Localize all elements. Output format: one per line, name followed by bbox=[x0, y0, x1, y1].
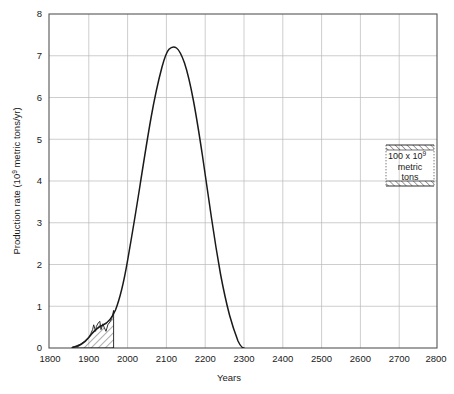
legend-value-prefix: 100 x 10 bbox=[388, 151, 423, 161]
y-tick-label-5: 5 bbox=[37, 134, 42, 145]
x-tick-label-2800: 2800 bbox=[425, 353, 446, 364]
x-tick-label-2400: 2400 bbox=[272, 353, 293, 364]
y-tick-label-8: 8 bbox=[37, 8, 42, 19]
production-rate-chart: 100 x 109 metric tons 0 1 2 3 4 5 6 7 8 … bbox=[0, 0, 454, 394]
x-tick-label-1900: 1900 bbox=[78, 353, 99, 364]
y-tick-label-4: 4 bbox=[37, 175, 42, 186]
chart-background bbox=[0, 0, 454, 394]
x-tick-label-2700: 2700 bbox=[389, 353, 410, 364]
y-tick-label-6: 6 bbox=[37, 92, 42, 103]
x-tick-label-1800: 1800 bbox=[39, 353, 60, 364]
x-tick-label-2300: 2300 bbox=[233, 353, 254, 364]
x-tick-label-2100: 2100 bbox=[156, 353, 177, 364]
y-axis-title: Production rate (109 metric tons/yr) bbox=[11, 107, 23, 254]
y-tick-label-2: 2 bbox=[37, 259, 42, 270]
x-tick-label-2500: 2500 bbox=[311, 353, 332, 364]
x-axis-title: Years bbox=[217, 372, 241, 383]
y-axis-title-tail: metric tons/yr) bbox=[11, 107, 22, 170]
legend-unit-line-2: tons bbox=[401, 172, 419, 182]
x-tick-label-2000: 2000 bbox=[117, 353, 138, 364]
y-tick-label-7: 7 bbox=[37, 50, 42, 61]
legend-value-exponent: 9 bbox=[423, 150, 427, 157]
y-axis-tick-labels: 0 1 2 3 4 5 6 7 8 bbox=[37, 8, 42, 353]
x-tick-label-2600: 2600 bbox=[350, 353, 371, 364]
x-tick-label-2200: 2200 bbox=[195, 353, 216, 364]
legend-unit-line-1: metric bbox=[398, 162, 423, 172]
legend-top-hatch bbox=[386, 145, 434, 150]
chart-figure: 100 x 109 metric tons 0 1 2 3 4 5 6 7 8 … bbox=[0, 0, 454, 394]
y-tick-label-1: 1 bbox=[37, 301, 42, 312]
y-tick-label-0: 0 bbox=[37, 342, 42, 353]
y-tick-label-3: 3 bbox=[37, 217, 42, 228]
legend-value-text: 100 x 109 bbox=[388, 150, 427, 162]
y-axis-title-main: Production rate (10 bbox=[11, 174, 22, 255]
